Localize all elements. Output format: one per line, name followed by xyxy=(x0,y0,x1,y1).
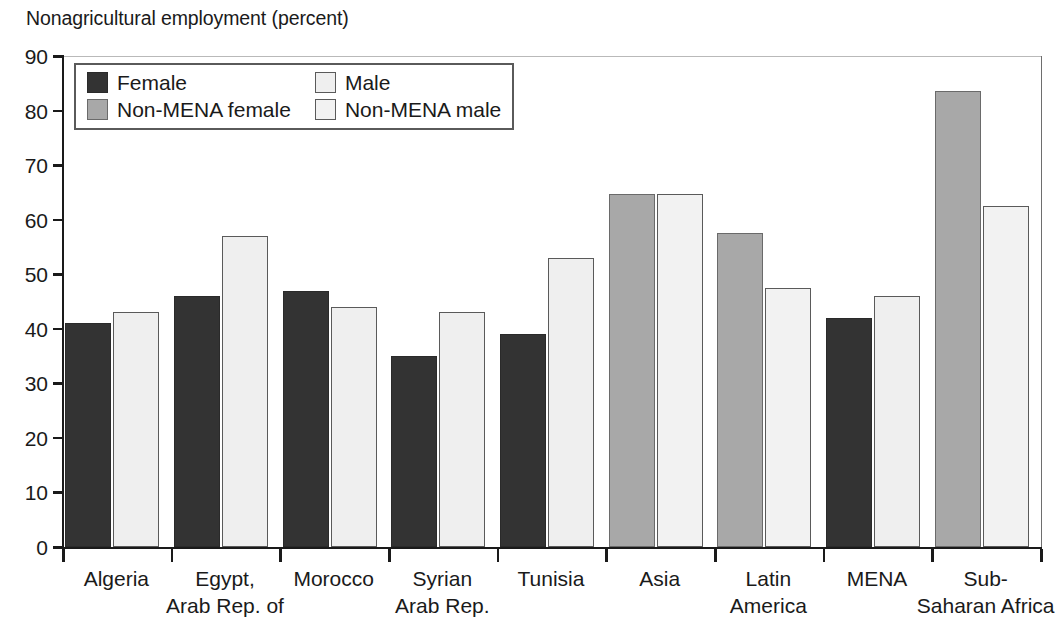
legend-swatch-male xyxy=(315,72,336,93)
y-tick-mark xyxy=(53,491,64,494)
legend-swatch-nm-male xyxy=(315,99,336,120)
y-tick-label: 30 xyxy=(2,373,48,394)
y-tick-label: 90 xyxy=(2,46,48,67)
legend-label: Male xyxy=(345,72,391,93)
bar-male xyxy=(113,312,159,547)
bar-female xyxy=(65,323,111,547)
x-axis-label: Egypt,Arab Rep. of xyxy=(166,565,284,619)
x-tick-mark xyxy=(497,549,500,562)
x-axis-label: Morocco xyxy=(293,565,374,592)
legend-item-nm-male: Non-MENA male xyxy=(315,99,501,120)
x-tick-mark xyxy=(279,549,282,562)
x-axis-label: Sub-Saharan Africa xyxy=(917,565,1055,619)
x-axis-label: Asia xyxy=(639,565,680,592)
bar-nm-female xyxy=(935,91,981,547)
legend-swatch-nm-female xyxy=(87,99,108,120)
bar-male xyxy=(331,307,377,547)
bar-female xyxy=(283,291,329,547)
x-tick-mark xyxy=(823,549,826,562)
x-axis-label-line1: Egypt, xyxy=(195,567,255,590)
x-axis-label-line1: Tunisia xyxy=(518,567,585,590)
legend-label: Non-MENA female xyxy=(117,99,291,120)
bar-nm-male xyxy=(983,206,1029,547)
x-axis-label-line1: Syrian xyxy=(413,567,473,590)
bar-male xyxy=(439,312,485,547)
bar-nm-male xyxy=(657,194,703,547)
x-axis-label-line1: Sub- xyxy=(963,567,1007,590)
bar-female xyxy=(500,334,546,547)
x-axis-label-line2: Saharan Africa xyxy=(917,592,1055,619)
x-axis-label: LatinAmerica xyxy=(730,565,807,619)
legend-item-nm-female: Non-MENA female xyxy=(87,99,291,120)
bar-female xyxy=(391,356,437,547)
bar-male xyxy=(548,258,594,547)
legend-swatch-female xyxy=(87,72,108,93)
legend-label: Non-MENA male xyxy=(345,99,501,120)
x-tick-mark xyxy=(714,549,717,562)
chart-title: Nonagricultural employment (percent) xyxy=(26,7,349,30)
x-axis-label: SyrianArab Rep. xyxy=(395,565,490,619)
x-axis-label-line1: Morocco xyxy=(293,567,374,590)
x-tick-mark xyxy=(62,549,65,562)
y-tick-mark xyxy=(53,219,64,222)
y-tick-label: 60 xyxy=(2,209,48,230)
x-axis-label-line2: Arab Rep. xyxy=(395,592,490,619)
y-tick-mark xyxy=(53,437,64,440)
bar-nm-male xyxy=(765,288,811,547)
y-tick-mark xyxy=(53,110,64,113)
x-axis: AlgeriaEgypt,Arab Rep. ofMoroccoSyrianAr… xyxy=(62,549,1042,638)
legend-label: Female xyxy=(117,72,187,93)
legend-item-female: Female xyxy=(87,72,291,93)
bar-female xyxy=(174,296,220,547)
x-axis-label-line1: MENA xyxy=(847,567,908,590)
y-tick-label: 50 xyxy=(2,264,48,285)
y-tick-label: 40 xyxy=(2,318,48,339)
y-tick-mark xyxy=(53,273,64,276)
x-axis-label-line1: Latin xyxy=(746,567,792,590)
bar-nm-female xyxy=(609,194,655,547)
y-tick-mark xyxy=(53,382,64,385)
legend-item-male: Male xyxy=(315,72,501,93)
x-axis-label-line2: America xyxy=(730,592,807,619)
bar-nm-female xyxy=(717,233,763,547)
y-tick-label: 10 xyxy=(2,482,48,503)
y-tick-mark xyxy=(53,328,64,331)
x-axis-label: Algeria xyxy=(84,565,149,592)
bar-male xyxy=(222,236,268,547)
y-tick-label: 0 xyxy=(2,537,48,558)
x-tick-mark xyxy=(931,549,934,562)
x-tick-mark xyxy=(171,549,174,562)
y-tick-mark xyxy=(53,55,64,58)
y-tick-label: 80 xyxy=(2,100,48,121)
x-axis-label-line2: Arab Rep. of xyxy=(166,592,284,619)
x-tick-mark xyxy=(605,549,608,562)
x-axis-label-line1: Algeria xyxy=(84,567,149,590)
y-tick-label: 70 xyxy=(2,155,48,176)
x-tick-mark xyxy=(388,549,391,562)
y-tick-mark xyxy=(53,164,64,167)
chart-legend: FemaleMaleNon-MENA femaleNon-MENA male xyxy=(74,63,514,130)
bar-male xyxy=(874,296,920,547)
x-axis-label-line1: Asia xyxy=(639,567,680,590)
x-axis-label: Tunisia xyxy=(518,565,585,592)
x-axis-label: MENA xyxy=(847,565,908,592)
x-tick-mark xyxy=(1040,549,1043,562)
bar-female xyxy=(826,318,872,547)
y-tick-label: 20 xyxy=(2,427,48,448)
